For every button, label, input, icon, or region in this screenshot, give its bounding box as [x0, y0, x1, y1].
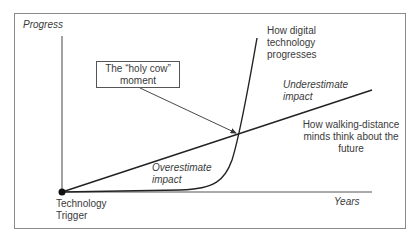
y-axis-label: Progress [23, 19, 63, 31]
linear-label-line3: future [291, 143, 411, 155]
origin-label-line2: Trigger [56, 210, 87, 222]
callout-line2: moment [97, 75, 179, 87]
digital-label-line3: progresses [267, 49, 316, 61]
digital-label-line2: technology [267, 37, 315, 49]
digital-label-line1: How digital [267, 25, 316, 37]
callout-line1: The “holy cow” [97, 63, 179, 75]
origin-label-line1: Technology [56, 198, 107, 210]
underestimate-label-line1: Underestimate [283, 79, 348, 91]
linear-label-line1: How walking-distance [291, 119, 411, 131]
callout-arrow [140, 88, 236, 133]
overestimate-label-line2: impact [152, 174, 181, 186]
linear-label-line2: minds think about the [291, 131, 411, 143]
x-axis-label: Years [334, 196, 360, 208]
origin-dot [59, 189, 66, 196]
holy-cow-callout: The “holy cow” moment [96, 61, 180, 88]
overestimate-label-line1: Overestimate [152, 162, 211, 174]
underestimate-label-line2: impact [283, 91, 312, 103]
